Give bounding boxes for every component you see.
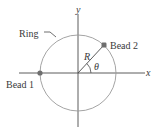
- radius-line: [78, 45, 104, 73]
- bead-2-label: Bead 2: [110, 40, 138, 51]
- bead-1-label: Bead 1: [6, 79, 34, 90]
- ring-label: Ring: [19, 28, 38, 39]
- bead-1-dot: [37, 70, 42, 75]
- radius-label: R: [83, 51, 90, 62]
- ring-bead-diagram: y x Ring Bead 1 Bead 2 R θ: [0, 0, 156, 131]
- theta-label: θ: [94, 61, 99, 72]
- y-axis-label: y: [75, 4, 81, 15]
- bead-2-dot: [102, 43, 107, 48]
- theta-arc: [87, 64, 91, 74]
- ring-leader-line: [44, 32, 56, 37]
- x-axis-label: x: [145, 67, 151, 78]
